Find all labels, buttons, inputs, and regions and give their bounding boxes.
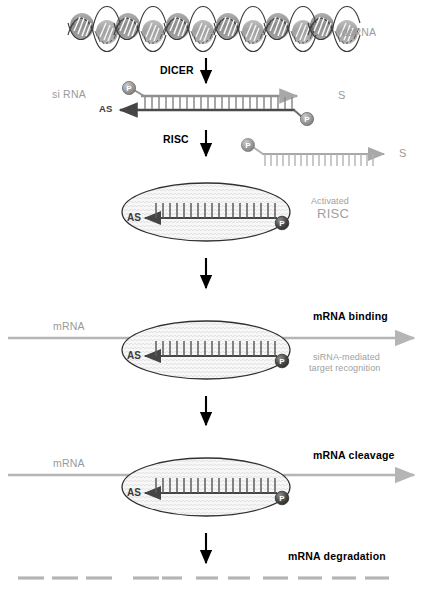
svg-text:P: P (279, 494, 285, 503)
label-sense-strand-released: S (399, 147, 407, 159)
rnai-pathway-diagram: P P (0, 0, 423, 590)
label-dicer: DICER (160, 65, 194, 77)
released-sense-strand: P (241, 138, 384, 166)
phosphate-icon: P (275, 491, 289, 505)
svg-text:P: P (279, 357, 285, 366)
label-mrna-cleavage: mRNA cleavage (313, 450, 395, 462)
svg-text:P: P (304, 115, 310, 124)
label-antisense-strand-top: AS (99, 104, 113, 115)
label-sense-strand-top: S (338, 89, 346, 101)
label-target-recognition-1: siRNA-mediated (313, 352, 380, 362)
label-dsrna: dsRNA (342, 27, 376, 39)
phosphate-icon: P (275, 354, 289, 368)
label-sirna: si RNA (52, 89, 86, 101)
label-risc: RISC (163, 134, 189, 146)
antisense-label: AS (127, 350, 141, 361)
activated-risc-complex: P AS (122, 183, 290, 241)
dsrna-group (68, 7, 360, 52)
svg-text:P: P (126, 84, 132, 93)
label-target-recognition-2: target recognition (309, 363, 380, 373)
svg-text:P: P (245, 141, 251, 150)
label-mrna-degradation: mRNA degradation (288, 551, 386, 563)
label-mrna-binding: mRNA binding (313, 311, 388, 323)
antisense-label: AS (127, 487, 141, 498)
sirna-duplex: P P (120, 81, 314, 125)
antisense-label: AS (127, 212, 141, 223)
label-mrna-2: mRNA (53, 458, 85, 470)
phosphate-icon: P (300, 112, 313, 125)
label-activated: Activated (311, 196, 349, 206)
phosphate-icon: P (241, 138, 254, 151)
phosphate-icon: P (122, 81, 135, 94)
label-activated-risc: RISC (317, 207, 349, 222)
label-mrna-1: mRNA (53, 321, 85, 333)
svg-text:P: P (279, 219, 285, 228)
phosphate-icon: P (275, 216, 289, 230)
